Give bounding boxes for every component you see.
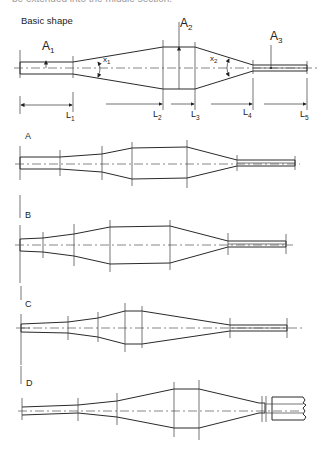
a3-label: A3 [270,29,283,45]
variant-d-label: D [26,378,33,388]
nozzle-shape-diagram: Basic shape A1 A2 A3 x1 x2 [0,0,333,455]
variant-b: B [15,195,293,283]
variant-d: D [18,366,306,440]
broken-section-end [272,397,306,420]
variant-b-label: B [25,210,31,220]
x2-angle-label: x2 [210,54,218,64]
variant-a-label: A [25,131,31,141]
l4-label: L4 [243,107,252,119]
l5-label: L5 [300,109,309,121]
variant-c-label: C [25,299,32,309]
l1-label: L1 [66,110,75,122]
variant-a: A [15,131,300,188]
basic-shape-title: Basic shape [21,15,73,26]
l3-label: L3 [191,109,200,121]
l2-label: L2 [153,109,162,121]
a1-label: A1 [42,39,55,55]
a2-label: A2 [180,16,193,32]
basic-shape: Basic shape A1 A2 A3 x1 x2 [14,15,318,122]
variant-c: C [16,286,302,365]
